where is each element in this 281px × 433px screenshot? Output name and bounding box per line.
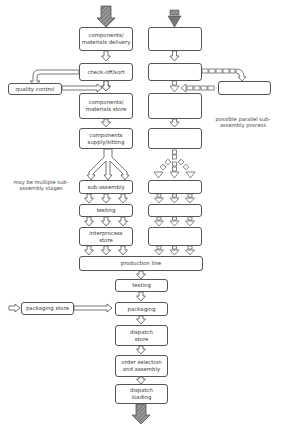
parallel-box-7: [148, 227, 202, 246]
box-dispatch-loading: dispatch loading: [115, 384, 168, 404]
input-arrow-icon: [97, 6, 115, 27]
box-components-kitting: components supply/kitting: [79, 128, 133, 149]
box-label: packaging store: [26, 305, 69, 312]
box-interprocess-store: interprocess store: [79, 227, 133, 246]
parallel-side-box: [218, 81, 271, 95]
note-multiple-stages: may be multiple sub-assembly stages: [12, 179, 70, 192]
box-dispatch-store: dispatch store: [115, 325, 168, 346]
box-production-line: production line: [79, 256, 203, 271]
box-label: dispatch loading: [116, 387, 167, 400]
parallel-box-1: [148, 27, 202, 51]
input-arrow-small-icon: [168, 10, 181, 27]
box-sub-assembly: sub-assembly: [79, 180, 133, 194]
box-label: quality control: [16, 86, 55, 93]
parallel-box-3: [148, 93, 202, 119]
box-order-selection: order selection and assembly: [115, 355, 168, 377]
box-label: testing: [132, 282, 151, 289]
parallel-box-5: [148, 180, 202, 194]
parallel-box-4: [148, 128, 202, 149]
box-label: dispatch store: [116, 329, 167, 342]
box-label: interprocess store: [80, 230, 132, 243]
box-check-off-sort: check-off/sort: [79, 63, 133, 81]
box-components-store: components/ materials store: [79, 93, 133, 119]
box-label: components/ materials store: [80, 99, 132, 112]
parallel-box-6: [148, 204, 202, 217]
box-label: components supply/kitting: [80, 132, 132, 145]
note-parallel-process: possible parallel sub-assembly process: [214, 116, 272, 129]
box-label: packaging: [128, 306, 156, 313]
box-components-delivery: components/ materials delivery: [79, 27, 133, 51]
box-label: production line: [121, 260, 161, 267]
box-testing-1: testing: [79, 204, 133, 217]
box-label: testing: [97, 207, 116, 214]
box-label: components/ materials delivery: [80, 32, 132, 45]
box-packaging-store: packaging store: [21, 302, 74, 315]
box-packaging: packaging: [115, 302, 168, 316]
box-testing-2: testing: [115, 279, 168, 292]
box-label: order selection and assembly: [116, 359, 167, 372]
box-quality-control: quality control: [8, 83, 62, 95]
parallel-box-2: [148, 63, 202, 81]
box-label: check-off/sort: [87, 69, 124, 76]
output-arrow-icon: [132, 404, 150, 424]
box-label: sub-assembly: [87, 184, 124, 191]
